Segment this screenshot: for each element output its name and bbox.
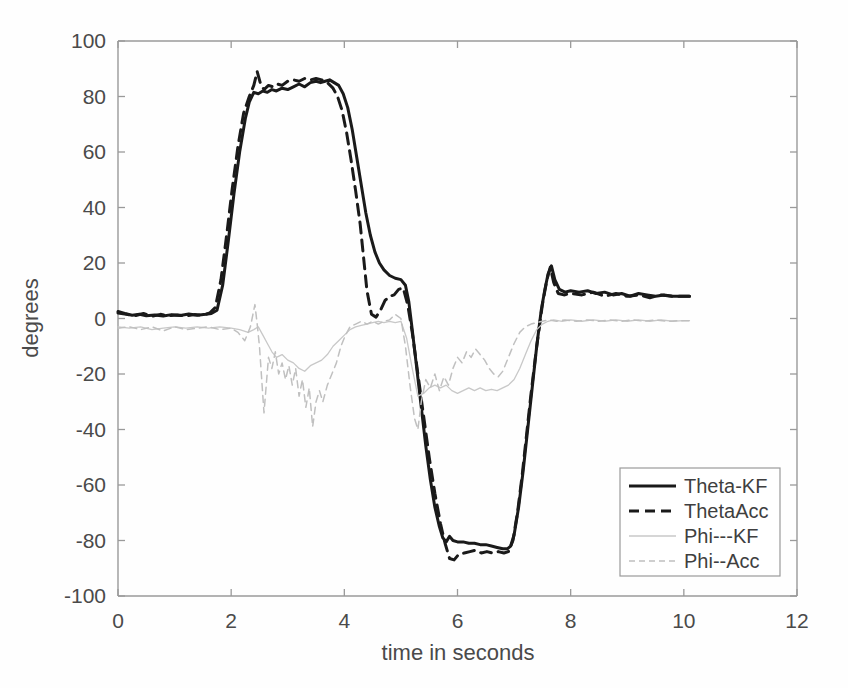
x-tick-label: 8: [565, 609, 577, 632]
y-tick-label: 40: [83, 196, 106, 219]
y-tick-label: 20: [83, 251, 106, 274]
y-tick-label: -40: [76, 418, 106, 441]
x-tick-label: 10: [672, 609, 695, 632]
x-tick-labels: 024681012: [112, 609, 809, 632]
chart-figure: 024681012 -100-80-60-40-20020406080100 T…: [0, 0, 848, 688]
y-tick-label: 60: [83, 140, 106, 163]
legend-label-phi-acc: Phi--Acc: [684, 550, 760, 572]
y-tick-label: -60: [76, 473, 106, 496]
y-tick-label: -100: [64, 584, 106, 607]
legend-label-theta-kf: Theta-KF: [684, 475, 767, 497]
series-line-phi-acc: [118, 305, 689, 430]
legend-label-thetaacc: ThetaAcc: [684, 500, 768, 522]
data-series: [118, 72, 689, 560]
x-tick-label: 2: [225, 609, 237, 632]
plot-canvas: 024681012 -100-80-60-40-20020406080100 T…: [0, 0, 848, 688]
y-tick-label: 0: [94, 307, 106, 330]
legend[interactable]: Theta-KFThetaAccPhi---KFPhi--Acc: [620, 468, 780, 576]
y-tick-label: -20: [76, 362, 106, 385]
x-tick-label: 12: [785, 609, 808, 632]
y-tick-labels: -100-80-60-40-20020406080100: [64, 29, 106, 607]
x-tick-label: 0: [112, 609, 124, 632]
y-axis-label: degrees: [18, 278, 43, 358]
series-line-theta-kf: [118, 80, 689, 549]
series-line-phi-kf: [118, 320, 689, 396]
y-tick-label: -80: [76, 529, 106, 552]
x-axis-label: time in seconds: [382, 640, 535, 665]
y-tick-label: 80: [83, 85, 106, 108]
y-tick-label: 100: [71, 29, 106, 52]
x-tick-label: 4: [338, 609, 350, 632]
legend-label-phi-kf: Phi---KF: [684, 525, 758, 547]
x-tick-label: 6: [452, 609, 464, 632]
